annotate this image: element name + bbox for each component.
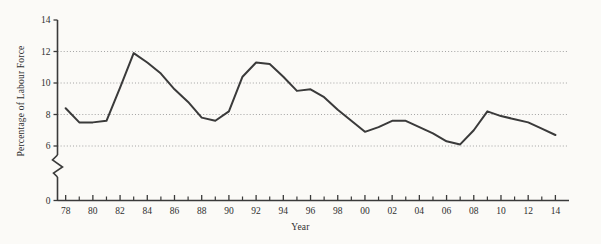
line-chart-plot: 068101214 788082848688909294969800020406… xyxy=(0,0,601,244)
x-tick-label: 78 xyxy=(61,206,71,216)
x-tick-label: 86 xyxy=(170,206,180,216)
x-tick-label: 94 xyxy=(279,206,289,216)
x-tick-label: 12 xyxy=(523,206,533,216)
y-tick-label: 10 xyxy=(41,78,51,88)
x-tick-label: 14 xyxy=(551,206,561,216)
x-tick-label: 96 xyxy=(306,206,316,216)
y-tick-label: 12 xyxy=(41,47,51,57)
y-tick-label: 6 xyxy=(46,141,51,151)
y-tick-label: 0 xyxy=(46,196,51,206)
x-tick-label: 02 xyxy=(387,206,397,216)
chart-figure: 068101214 788082848688909294969800020406… xyxy=(0,0,601,244)
data-series-line xyxy=(66,53,556,144)
x-tick-label: 80 xyxy=(88,206,98,216)
x-tick-label: 88 xyxy=(197,206,207,216)
x-axis-tick-labels: 78808284868890929496980002040608101214 xyxy=(61,206,560,216)
x-tick-label: 06 xyxy=(442,206,452,216)
x-tick-label: 00 xyxy=(360,206,370,216)
x-tick-label: 08 xyxy=(469,206,479,216)
x-axis-ticks xyxy=(66,195,556,201)
x-tick-label: 92 xyxy=(251,206,261,216)
x-tick-label: 98 xyxy=(333,206,343,216)
y-tick-label: 8 xyxy=(46,110,51,120)
y-axis-title: Percentage of Labour Force xyxy=(16,26,26,176)
x-tick-label: 84 xyxy=(143,206,153,216)
x-axis-title: Year xyxy=(0,222,601,232)
x-tick-label: 82 xyxy=(115,206,125,216)
x-tick-label: 04 xyxy=(415,206,425,216)
y-axis-tick-labels: 068101214 xyxy=(41,15,51,206)
gridlines xyxy=(58,52,570,147)
x-tick-label: 10 xyxy=(496,206,506,216)
y-tick-label: 14 xyxy=(41,15,51,25)
y-axis-break-icon xyxy=(53,155,63,177)
axis-lines xyxy=(53,20,570,201)
x-tick-label: 90 xyxy=(224,206,234,216)
